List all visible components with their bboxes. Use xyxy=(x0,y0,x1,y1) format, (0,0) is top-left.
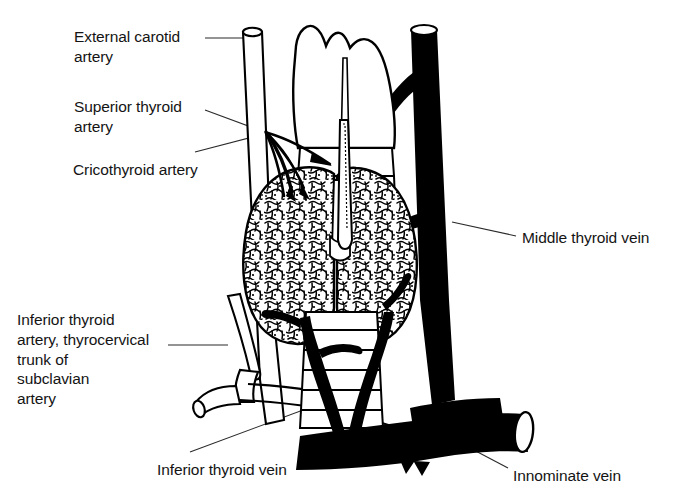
label-inferior-thyroid-vein: Inferior thyroid vein xyxy=(157,460,287,480)
thyroid-anatomy-figure: { "figure": { "title": "Arterial and ven… xyxy=(0,0,675,498)
label-middle-thyroid-vein: Middle thyroid vein xyxy=(522,228,649,248)
label-external-carotid-artery: External carotid artery xyxy=(74,27,180,67)
label-inferior-thyroid-artery: Inferior thyroid artery, thyrocervical t… xyxy=(17,310,149,409)
label-cricothyroid-artery: Cricothyroid artery xyxy=(73,160,198,180)
label-superior-thyroid-artery: Superior thyroid artery xyxy=(74,97,182,137)
jugular-lumen xyxy=(411,25,437,35)
label-innominate-vein: Innominate vein xyxy=(513,466,621,486)
anatomy-illustration xyxy=(0,0,675,498)
